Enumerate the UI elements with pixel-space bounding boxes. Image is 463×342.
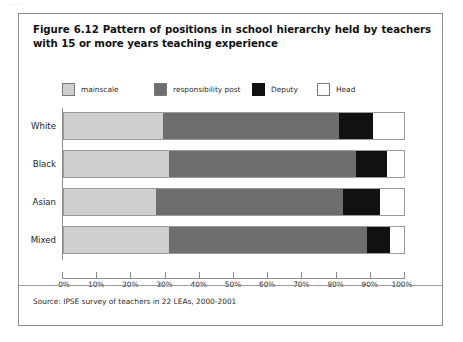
legend-item-mainscale[interactable]: mainscale — [62, 80, 119, 98]
axis-tick — [233, 272, 234, 278]
stacked-bar-asian[interactable] — [63, 188, 405, 216]
bar-segment-deputy — [343, 189, 380, 215]
figure-container: Figure 6.12 Pattern of positions in scho… — [18, 13, 443, 326]
chart-legend: mainscale responsibility post Deputy Hea… — [62, 80, 402, 98]
legend-item-head[interactable]: Head — [317, 80, 355, 98]
legend-label-mainscale: mainscale — [81, 85, 119, 94]
bar-segment-mainscale — [64, 113, 163, 139]
bar-segment-deputy — [367, 227, 391, 253]
chart-plot-area: White Black Asian — [62, 108, 407, 260]
figure-caption: Figure 6.12 Pattern of positions in scho… — [33, 23, 431, 51]
bar-row: White — [63, 112, 405, 140]
axis-tick — [370, 272, 371, 278]
legend-swatch-deputy — [252, 83, 265, 96]
legend-swatch-responsibility-post — [154, 83, 167, 96]
bar-segment-responsibility-post — [163, 113, 340, 139]
category-label-mixed: Mixed — [31, 226, 56, 254]
bar-segment-responsibility-post — [156, 189, 343, 215]
source-divider — [19, 285, 442, 286]
legend-swatch-head — [317, 83, 330, 96]
stacked-bar-white[interactable] — [63, 112, 405, 140]
source-note: Source: IPSE survey of teachers in 22 LE… — [33, 297, 236, 306]
category-label-white: White — [31, 112, 56, 140]
legend-swatch-mainscale — [62, 83, 75, 96]
bar-segment-head — [373, 113, 404, 139]
bar-segment-deputy — [339, 113, 373, 139]
legend-label-responsibility-post: responsibility post — [173, 85, 241, 94]
bar-segment-head — [387, 151, 404, 177]
page-top-sliver: ....... — [8, 0, 68, 6]
legend-label-head: Head — [336, 85, 355, 94]
stacked-bar-mixed[interactable] — [63, 226, 405, 254]
axis-tick — [165, 272, 166, 278]
bar-segment-mainscale — [64, 189, 156, 215]
axis-tick — [130, 272, 131, 278]
axis-tick — [404, 272, 405, 278]
axis-tick — [267, 272, 268, 278]
stacked-bar-black[interactable] — [63, 150, 405, 178]
axis-tick — [96, 272, 97, 278]
axis-tick — [301, 272, 302, 278]
bar-segment-mainscale — [64, 227, 169, 253]
axis-tick — [336, 272, 337, 278]
bar-row: Black — [63, 150, 405, 178]
bar-segment-responsibility-post — [169, 227, 366, 253]
category-label-black: Black — [33, 150, 56, 178]
category-label-asian: Asian — [33, 188, 56, 216]
legend-item-responsibility-post[interactable]: responsibility post — [154, 80, 241, 98]
bar-row: Mixed — [63, 226, 405, 254]
bar-segment-deputy — [356, 151, 387, 177]
bar-row: Asian — [63, 188, 405, 216]
bar-segment-head — [380, 189, 404, 215]
bar-segment-responsibility-post — [169, 151, 356, 177]
legend-item-deputy[interactable]: Deputy — [252, 80, 298, 98]
bar-segment-head — [390, 227, 404, 253]
legend-label-deputy: Deputy — [271, 85, 298, 94]
bar-segment-mainscale — [64, 151, 169, 177]
value-axis-line — [62, 278, 405, 279]
axis-tick — [199, 272, 200, 278]
axis-tick — [62, 272, 63, 278]
